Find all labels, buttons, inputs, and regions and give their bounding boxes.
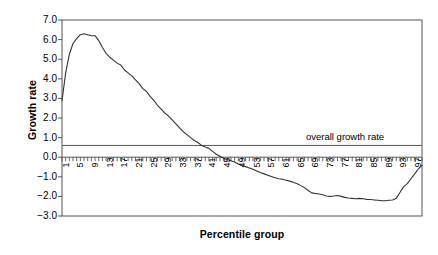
x-tick-label: 1 — [61, 163, 70, 168]
x-tick-label: 33 — [179, 158, 188, 168]
x-tick-label: 45 — [223, 158, 232, 168]
x-tick-label: 37 — [193, 158, 202, 168]
x-tick-label: 73 — [325, 158, 334, 168]
x-tick-label: 89 — [384, 158, 393, 168]
x-tick-label: 41 — [208, 158, 217, 168]
x-tick-label: 21 — [134, 158, 143, 168]
x-tick-label: 49 — [237, 158, 246, 168]
x-tick-label: 85 — [370, 158, 379, 168]
x-axis-title: Percentile group — [62, 228, 422, 240]
x-tick-label: 29 — [164, 158, 173, 168]
x-tick-label: 17 — [120, 158, 129, 168]
x-tick-label: 61 — [281, 158, 290, 168]
x-tick-label: 81 — [355, 158, 364, 168]
x-tick-label: 5 — [76, 163, 85, 168]
x-tick-label: 13 — [105, 158, 114, 168]
x-tick-label: 69 — [311, 158, 320, 168]
x-tick-label: 57 — [267, 158, 276, 168]
x-axis-tick-labels: 1591317212529333741454953576165697377818… — [0, 0, 438, 255]
x-tick-label: 25 — [149, 158, 158, 168]
x-tick-label: 77 — [340, 158, 349, 168]
x-tick-label: 53 — [252, 158, 261, 168]
growth-rate-chart: Growth rate 7.06.05.04.03.02.01.00.0−1.0… — [0, 0, 438, 255]
overall-growth-rate-label: overall growth rate — [306, 132, 384, 142]
x-tick-label: 93 — [399, 158, 408, 168]
x-tick-label: 65 — [296, 158, 305, 168]
x-tick-label: 97 — [414, 158, 423, 168]
x-tick-label: 9 — [90, 163, 99, 168]
